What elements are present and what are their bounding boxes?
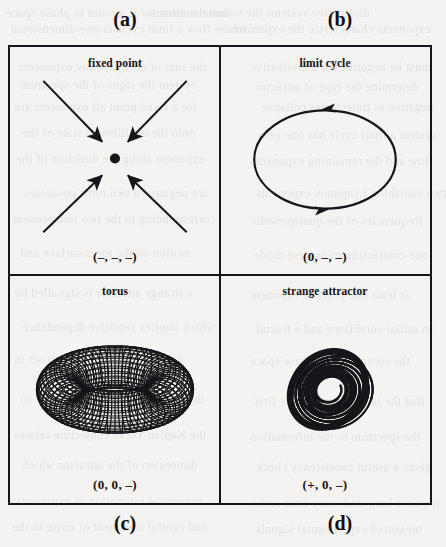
panel-limit-cycle: limit cycle (0, –, –) [220,47,430,275]
panel-title-torus: torus [10,285,220,297]
artwork-wireframe-torus [10,301,220,473]
artwork-chaotic-spiral [220,301,430,473]
panel-label-torus: (0, 0, –) [10,477,220,493]
artwork-limit-cycle-ellipse [220,73,430,245]
panel-label-limit-cycle: (0, –, –) [220,249,430,265]
panel-strange-attractor: strange attractor (+, 0, –) [220,275,430,503]
caption-c: (c) [95,512,155,535]
panel-title-limit-cycle: limit cycle [220,57,430,69]
panel-label-fixed-point: (–, –, –) [10,249,220,265]
artwork-converging-arrows [10,73,220,245]
panel-torus: torus (0, 0, –) [10,275,220,503]
caption-d: (d) [310,512,370,535]
panel-title-strange-attractor: strange attractor [220,285,430,297]
figure-frame: fixed point (–, –, –) limit cycle [8,45,432,505]
panel-label-strange-attractor: (+, 0, –) [220,477,430,493]
caption-b: (b) [310,8,370,31]
caption-a: (a) [95,8,155,31]
panel-title-fixed-point: fixed point [10,57,220,69]
panel-fixed-point: fixed point (–, –, –) [10,47,220,275]
